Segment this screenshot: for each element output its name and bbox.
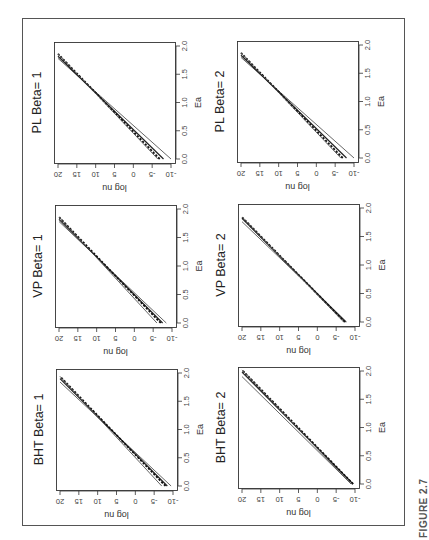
lognu-tick-label: 20 xyxy=(54,170,62,179)
lognu-tick-label: 15 xyxy=(257,495,265,504)
ea-tick-label: 0.0 xyxy=(364,317,373,327)
lognu-tick-label: 5 xyxy=(296,495,300,504)
ea-tick-label: 0.5 xyxy=(363,125,372,135)
ea-axis-label: Ea xyxy=(194,260,204,271)
lognu-tick-label: 0 xyxy=(315,495,319,504)
ea-axis-label: Ea xyxy=(376,96,386,107)
ea-axis-label: Ea xyxy=(193,97,203,108)
lognu-tick-label: -5 xyxy=(151,497,158,506)
lognu-tick-label: -10 xyxy=(350,495,361,504)
lognu-tick-label: -10 xyxy=(168,497,179,506)
ea-tick-label: 1.5 xyxy=(364,394,373,404)
lognu-tick-label: 0 xyxy=(132,334,136,343)
lognu-tick-label: 20 xyxy=(55,334,63,343)
ea-tick-label: 2.0 xyxy=(363,40,372,50)
panel-title: PL Beta= 2 xyxy=(213,71,227,133)
lognu-tick-label: -10 xyxy=(350,333,361,342)
plot-box xyxy=(57,370,178,491)
lognu-tick-label: -10 xyxy=(349,169,360,178)
lognu-tick-label: 15 xyxy=(73,170,81,179)
plot-box xyxy=(239,205,360,327)
lognu-axis-label: log nu xyxy=(286,346,311,356)
panel-title: VP Beta= 2 xyxy=(214,233,228,296)
series-line-estimate xyxy=(59,219,163,323)
panel-pl-beta-2: PL Beta= 20.00.51.01.52.0Ea-10-505101520… xyxy=(213,40,386,192)
ea-tick-label: 1.0 xyxy=(364,422,373,432)
ea-tick-label: 2.0 xyxy=(182,368,191,378)
ea-tick-label: 2.0 xyxy=(364,366,373,376)
series-line-upper-bound xyxy=(242,370,351,484)
panel-title: PL Beta= 1 xyxy=(30,72,44,134)
ea-tick-label: 1.5 xyxy=(363,68,372,78)
plot-box xyxy=(56,206,177,328)
ea-tick-label: 2.0 xyxy=(364,203,373,213)
lognu-tick-label: 15 xyxy=(256,169,264,178)
series-line-upper-bound xyxy=(59,217,157,323)
ea-tick-label: 0.0 xyxy=(181,318,190,328)
series-line-estimate xyxy=(241,55,347,158)
ea-tick-label: 1.5 xyxy=(180,69,189,79)
lognu-tick-label: 5 xyxy=(295,169,299,178)
lognu-tick-label: 20 xyxy=(237,169,245,178)
ea-tick-label: 0.0 xyxy=(180,154,189,164)
ea-tick-label: 0.5 xyxy=(181,289,190,299)
lognu-tick-label: 0 xyxy=(131,170,135,179)
ea-tick-label: 1.5 xyxy=(182,396,191,406)
lognu-tick-label: 10 xyxy=(275,495,283,504)
lognu-tick-label: 5 xyxy=(114,497,118,506)
series-line-upper-bound xyxy=(241,53,341,158)
ea-tick-label: 0.5 xyxy=(182,453,191,463)
ea-tick-label: 1.0 xyxy=(364,260,373,270)
lognu-tick-label: -10 xyxy=(166,170,177,179)
lognu-axis-label: log nu xyxy=(286,508,311,518)
ea-tick-label: 0.5 xyxy=(364,451,373,461)
panel-pl-beta-1: PL Beta= 10.00.51.01.52.0Ea-10-505101520… xyxy=(30,41,203,193)
ea-tick-label: 1.0 xyxy=(182,424,191,434)
panel-bht-beta-1: BHT Beta= 10.00.51.01.52.0Ea-10-50510152… xyxy=(32,368,205,520)
ea-tick-label: 0.0 xyxy=(182,481,191,491)
lognu-axis-label: log nu xyxy=(285,182,310,192)
ea-axis-label: Ea xyxy=(377,422,387,433)
figure-label: FIGURE 2.7 xyxy=(418,479,429,538)
ea-tick-label: 0.0 xyxy=(363,153,372,163)
ea-axis-label: Ea xyxy=(195,424,205,435)
lognu-tick-label: 10 xyxy=(92,334,100,343)
series-line-lower-bound xyxy=(242,377,351,484)
ea-tick-label: 1.5 xyxy=(181,232,190,242)
lognu-tick-label: 15 xyxy=(74,334,82,343)
lognu-tick-label: -5 xyxy=(333,495,340,504)
lognu-tick-label: 10 xyxy=(91,170,99,179)
lognu-tick-label: -5 xyxy=(332,169,339,178)
lognu-tick-label: 5 xyxy=(113,334,117,343)
lognu-axis-label: log nu xyxy=(103,347,128,357)
panel-vp-beta-1: VP Beta= 10.00.51.01.52.0Ea-10-505101520… xyxy=(31,204,204,357)
lognu-tick-label: 20 xyxy=(238,333,246,342)
series-line-upper-bound xyxy=(242,217,344,322)
panel-vp-beta-2: VP Beta= 20.00.51.01.52.0Ea-10-505101520… xyxy=(214,203,387,356)
lognu-tick-label: 10 xyxy=(93,497,101,506)
ea-tick-label: 1.5 xyxy=(364,231,373,241)
panel-title: BHT Beta= 2 xyxy=(214,392,228,464)
ea-tick-label: 2.0 xyxy=(181,204,190,214)
plot-box xyxy=(55,43,176,164)
lognu-tick-label: -5 xyxy=(149,170,156,179)
panel-bht-beta-2: BHT Beta= 20.00.51.01.52.0Ea-10-50510152… xyxy=(214,366,387,518)
ea-tick-label: 1.0 xyxy=(363,96,372,106)
lognu-tick-label: 20 xyxy=(56,497,64,506)
plot-box xyxy=(238,42,359,163)
figure-canvas: PL Beta= 10.00.51.01.52.0Ea-10-505101520… xyxy=(0,0,429,540)
lognu-axis-label: log nu xyxy=(102,183,127,193)
ea-tick-label: 0.5 xyxy=(180,126,189,136)
series-line-estimate xyxy=(60,379,167,486)
series-line-estimate xyxy=(58,56,164,159)
lognu-axis-label: log nu xyxy=(104,510,129,520)
series-line-upper-bound xyxy=(60,376,162,486)
ea-tick-label: 0.5 xyxy=(364,288,373,298)
lognu-tick-label: 5 xyxy=(296,333,300,342)
lognu-tick-label: 15 xyxy=(257,333,265,342)
ea-tick-label: 1.0 xyxy=(181,261,190,271)
panel-title: BHT Beta= 1 xyxy=(32,394,46,466)
lognu-tick-label: 0 xyxy=(315,333,319,342)
ea-tick-label: 1.0 xyxy=(180,97,189,107)
lognu-tick-label: -5 xyxy=(150,334,157,343)
